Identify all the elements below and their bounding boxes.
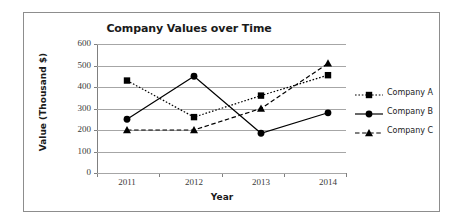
legend-item[interactable]: Company A	[354, 83, 444, 102]
data-point-marker	[191, 73, 198, 80]
y-axis-tick-label: 100	[51, 146, 91, 156]
data-point-marker	[258, 130, 265, 137]
data-point-marker	[258, 92, 264, 98]
legend-item[interactable]: Company C	[354, 121, 444, 140]
data-point-marker	[324, 59, 332, 66]
x-axis-tick-mark	[222, 174, 223, 177]
data-point-marker	[325, 72, 331, 78]
x-axis-tick-label: 2012	[164, 177, 224, 187]
x-axis-tick-label: 2014	[298, 177, 358, 187]
chart-legend: Company ACompany BCompany C	[354, 83, 444, 140]
data-point-marker	[257, 105, 265, 112]
x-axis-title: Year	[97, 192, 347, 202]
data-point-marker	[124, 77, 130, 83]
chart-title: Company Values over Time	[24, 22, 354, 35]
data-point-marker	[191, 114, 197, 120]
x-axis-tick-label: 2013	[231, 177, 291, 187]
legend-label: Company A	[384, 88, 433, 97]
y-axis-tick-label: 500	[51, 60, 91, 70]
legend-label: Company B	[384, 107, 433, 116]
x-axis-tick-mark	[159, 174, 160, 177]
legend-key-triangle-icon	[354, 125, 384, 137]
series-layer	[97, 44, 346, 174]
data-point-marker	[325, 109, 332, 116]
y-axis-title: Value (Thousand $)	[38, 47, 48, 157]
chart-figure: Company Values over Time Value (Thousand…	[23, 12, 440, 212]
legend-key-circle-icon	[354, 106, 384, 118]
x-axis-tick-mark	[284, 174, 285, 177]
x-axis-tick-mark	[97, 174, 98, 177]
y-axis-tick-label: 600	[51, 38, 91, 48]
legend-label: Company C	[384, 126, 433, 135]
series-line	[127, 75, 328, 117]
legend-key-square-icon	[354, 87, 384, 99]
x-axis-tick-label: 2011	[97, 177, 157, 187]
plot-area: 0100200300400500600 2011201220132014	[97, 44, 346, 173]
legend-item[interactable]: Company B	[354, 102, 444, 121]
y-axis-tick-label: 300	[51, 103, 91, 113]
y-axis-tick-label: 400	[51, 81, 91, 91]
x-axis-tick-mark	[346, 174, 347, 177]
y-axis-tick-label: 200	[51, 124, 91, 134]
y-axis-tick-label: 0	[51, 167, 91, 177]
data-point-marker	[124, 116, 131, 123]
